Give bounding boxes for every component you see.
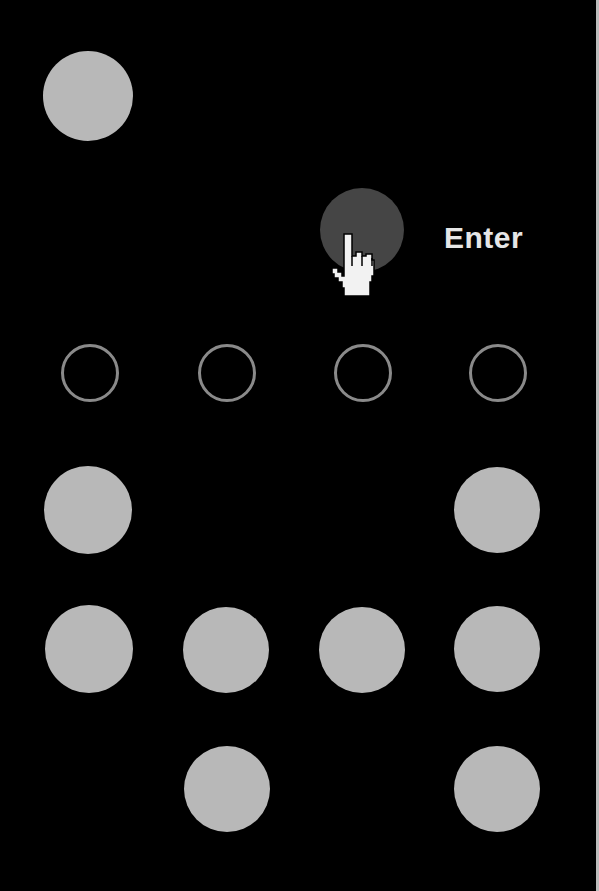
keypad-key-r6-c4[interactable] bbox=[454, 746, 540, 832]
pin-indicator-4 bbox=[469, 344, 527, 402]
pin-indicator-2 bbox=[198, 344, 256, 402]
keypad-key-r4-c4[interactable] bbox=[454, 467, 540, 553]
keypad-key-r5-c1[interactable] bbox=[45, 605, 133, 693]
keypad-key-r6-c2[interactable] bbox=[184, 746, 270, 832]
keypad-key-top-left[interactable] bbox=[43, 51, 133, 141]
keypad-key-r5-c3[interactable] bbox=[319, 607, 405, 693]
pin-indicator-1 bbox=[61, 344, 119, 402]
pin-indicator-3 bbox=[334, 344, 392, 402]
hand-pointer-icon bbox=[328, 232, 384, 298]
enter-button[interactable]: Enter bbox=[444, 221, 523, 255]
keypad-key-r5-c2[interactable] bbox=[183, 607, 269, 693]
keypad-key-r5-c4[interactable] bbox=[454, 606, 540, 692]
keypad-key-r4-c1[interactable] bbox=[44, 466, 132, 554]
